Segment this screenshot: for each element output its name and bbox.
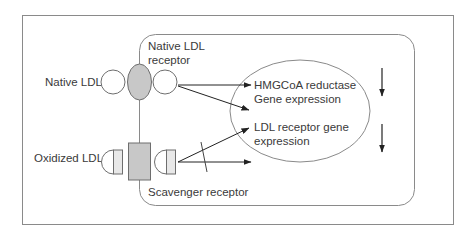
ldlr-label-line2: expression	[254, 135, 310, 147]
native-ldl-receptor-label: Native LDL	[148, 40, 205, 52]
block-tick-mark	[201, 142, 207, 172]
arrow-oxidized-to-ldlr	[178, 128, 249, 162]
native-ldl-particle-icon	[101, 70, 125, 94]
oxidized-ldl-label: Oxidized LDL	[34, 152, 104, 164]
scavenger-receptor-icon	[129, 143, 151, 180]
arrow-native-to-ldlr	[178, 86, 249, 110]
ldl-receptor-diagram: Native LDL receptor Native LDL Oxidized …	[0, 0, 473, 233]
hmgcoa-label: HMGCoA reductase	[254, 79, 356, 91]
ldlr-label: LDL receptor gene	[254, 121, 349, 133]
native-ldl-label: Native LDL	[45, 76, 102, 88]
oxidized-ldl-particle-icon	[102, 150, 123, 174]
native-ldl-receptor-icon	[128, 64, 152, 100]
native-ldl-receptor-label-line2: receptor	[148, 54, 190, 66]
scavenger-receptor-label: Scavenger receptor	[148, 186, 249, 198]
internalized-oxidized-ldl-icon	[155, 150, 176, 174]
internalized-ldl-particle-icon	[153, 70, 177, 94]
hmgcoa-label-line2: Gene expression	[254, 93, 341, 105]
